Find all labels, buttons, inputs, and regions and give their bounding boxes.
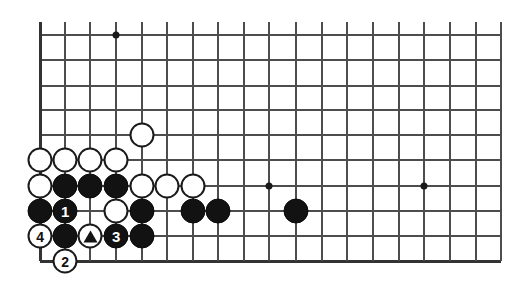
board-grid-line-vertical (166, 22, 168, 261)
stone-white[interactable] (28, 174, 53, 199)
board-grid-line-vertical (500, 22, 502, 261)
go-board[interactable]: 1432 (0, 0, 529, 285)
stone-white[interactable] (28, 148, 53, 173)
board-grid-line-vertical (243, 22, 245, 261)
stone-black-move-3[interactable]: 3 (104, 224, 129, 249)
stone-black[interactable] (130, 224, 155, 249)
stone-white-move-2[interactable]: 2 (53, 249, 78, 274)
board-grid-line-vertical (321, 22, 323, 261)
stone-black[interactable] (206, 199, 231, 224)
move-number-label: 2 (61, 254, 68, 268)
star-point (266, 183, 273, 190)
board-grid-line-horizontal (40, 85, 501, 87)
stone-white-triangle-marked[interactable] (78, 224, 103, 249)
stone-black[interactable] (284, 199, 309, 224)
board-grid-line-vertical (423, 22, 425, 261)
move-number-label: 3 (112, 229, 120, 244)
board-grid-line-vertical (346, 22, 348, 261)
stone-white[interactable] (155, 174, 180, 199)
stone-white[interactable] (130, 123, 155, 148)
stone-white-move-4[interactable]: 4 (28, 224, 53, 249)
board-grid-line-vertical (295, 22, 297, 261)
board-grid-line-horizontal (40, 260, 501, 263)
triangle-icon (83, 230, 97, 242)
board-grid-line-vertical (398, 22, 400, 261)
board-grid-line-horizontal (40, 59, 501, 61)
star-point (421, 183, 428, 190)
board-grid-line-horizontal (40, 34, 501, 36)
stone-black-move-1[interactable]: 1 (53, 199, 78, 224)
stone-black[interactable] (130, 199, 155, 224)
stone-black[interactable] (104, 174, 129, 199)
move-number-label: 1 (61, 204, 69, 219)
board-grid-line-vertical (449, 22, 451, 261)
board-grid-line-vertical (372, 22, 374, 261)
stone-black[interactable] (78, 174, 103, 199)
star-point (113, 32, 120, 39)
stone-black[interactable] (53, 174, 78, 199)
board-grid-line-horizontal (40, 109, 501, 111)
board-grid-line-vertical (217, 22, 219, 261)
move-number-label: 4 (36, 229, 43, 243)
board-grid-line-vertical (475, 22, 477, 261)
stone-white[interactable] (78, 148, 103, 173)
stone-white[interactable] (181, 174, 206, 199)
stone-black[interactable] (53, 224, 78, 249)
board-grid-line-vertical (268, 22, 270, 261)
go-diagram-root: 1432 (0, 0, 529, 285)
stone-white[interactable] (130, 174, 155, 199)
stone-white[interactable] (53, 148, 78, 173)
stone-black[interactable] (181, 199, 206, 224)
board-grid-line-vertical (192, 22, 194, 261)
stone-white[interactable] (104, 148, 129, 173)
board-grid-line-horizontal (40, 134, 501, 136)
stone-white[interactable] (104, 199, 129, 224)
stone-black[interactable] (28, 199, 53, 224)
